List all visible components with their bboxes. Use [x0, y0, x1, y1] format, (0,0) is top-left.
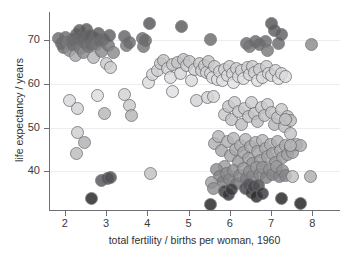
- y-tick-50: [44, 128, 49, 129]
- data-point: [305, 38, 318, 51]
- x-tick-label-3: 3: [96, 218, 116, 229]
- y-tick-label-50: 50: [28, 122, 40, 133]
- data-point: [104, 61, 117, 74]
- y-axis-label: life expectancy / years: [13, 35, 25, 185]
- y-tick-70: [44, 40, 49, 41]
- x-axis-spine: [49, 210, 340, 211]
- data-point: [71, 102, 84, 115]
- data-point: [166, 85, 179, 98]
- x-tick-label-7: 7: [261, 218, 281, 229]
- y-tick-40: [44, 171, 49, 172]
- x-tick-label-4: 4: [137, 218, 157, 229]
- data-point: [85, 192, 98, 205]
- data-point: [207, 90, 220, 103]
- x-tick-6: [230, 211, 231, 216]
- x-tick-5: [189, 211, 190, 216]
- data-points-layer: [49, 12, 340, 210]
- data-point: [286, 170, 299, 183]
- data-point: [104, 171, 117, 184]
- data-point: [144, 167, 157, 180]
- x-tick-label-2: 2: [55, 218, 75, 229]
- data-point: [304, 170, 317, 183]
- data-point: [78, 136, 91, 149]
- plot-area: [49, 12, 340, 210]
- x-tick-label-5: 5: [179, 218, 199, 229]
- data-point: [123, 36, 136, 49]
- data-point: [107, 46, 120, 59]
- data-point: [103, 29, 116, 42]
- data-point: [275, 28, 288, 41]
- x-axis-label: total fertility / births per woman, 1960: [49, 234, 340, 246]
- data-point: [275, 192, 288, 205]
- data-point: [279, 70, 292, 83]
- y-tick-60: [44, 84, 49, 85]
- data-point: [256, 187, 269, 200]
- x-tick-8: [312, 211, 313, 216]
- data-point: [284, 139, 297, 152]
- x-tick-2: [65, 211, 66, 216]
- data-point: [91, 89, 104, 102]
- y-tick-label-40: 40: [28, 165, 40, 176]
- x-tick-label-6: 6: [220, 218, 240, 229]
- data-point: [175, 20, 188, 33]
- data-point: [70, 147, 83, 160]
- data-point: [225, 183, 238, 196]
- x-tick-7: [271, 211, 272, 216]
- scatter-chart: 40506070 2345678 total fertility / birth…: [0, 0, 358, 257]
- x-tick-label-8: 8: [302, 218, 322, 229]
- y-axis-spine: [49, 12, 50, 210]
- x-tick-4: [147, 211, 148, 216]
- data-point: [139, 34, 152, 47]
- y-tick-label-60: 60: [28, 78, 40, 89]
- y-tick-label-70: 70: [28, 34, 40, 45]
- data-point: [294, 197, 307, 210]
- data-point: [125, 109, 138, 122]
- data-point: [98, 107, 111, 120]
- x-tick-3: [106, 211, 107, 216]
- data-point: [279, 113, 292, 126]
- data-point: [143, 17, 156, 30]
- data-point: [204, 33, 217, 46]
